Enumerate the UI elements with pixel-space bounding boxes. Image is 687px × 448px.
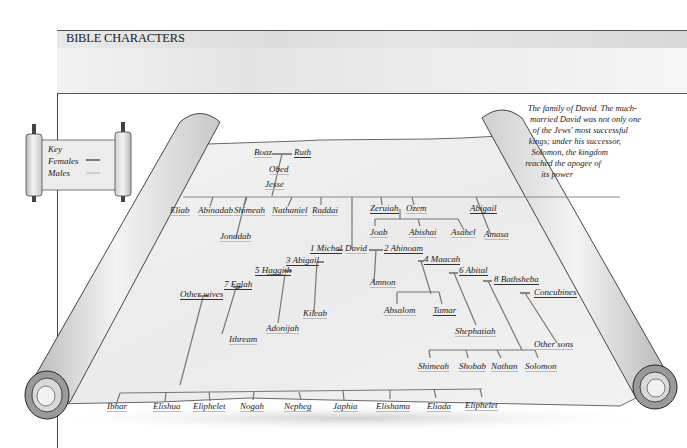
person-ruth: Ruth bbox=[294, 148, 311, 158]
wife-eglah: 7 Eglah bbox=[224, 280, 252, 290]
person-joab: Joab bbox=[370, 228, 388, 238]
person-japhia: Japhia bbox=[333, 402, 358, 412]
person-absalom: Absalom bbox=[384, 306, 416, 316]
wife-concubines: Concubines bbox=[534, 288, 577, 298]
caption-line-4: kings; under his successor, bbox=[529, 136, 621, 147]
person-eliada: Eliada bbox=[427, 402, 451, 412]
key-title: Key bbox=[48, 145, 62, 154]
wife-michal: 1 Michal bbox=[310, 244, 342, 254]
person-jesse: Jesse bbox=[265, 180, 284, 190]
person-abinadab: Abinadab bbox=[198, 206, 233, 216]
person-nathan: Nathan bbox=[491, 362, 518, 372]
person-shimeah: Shimeah bbox=[234, 206, 265, 216]
person-tamar: Tamar bbox=[433, 306, 456, 316]
person-elishua: Elishua bbox=[153, 402, 181, 412]
person-obed: Obed bbox=[269, 165, 289, 175]
person-adonijah: Adonijah bbox=[266, 324, 299, 334]
person-abigail-sister: Abigail bbox=[470, 204, 497, 214]
person-solomon: Solomon bbox=[525, 362, 557, 372]
person-jonadab: Jonadab bbox=[220, 232, 251, 242]
caption-line-6: reached the apogee of bbox=[525, 158, 601, 169]
person-shimeah-son: Shimeah bbox=[418, 362, 449, 372]
person-ithream: Ithream bbox=[229, 335, 257, 345]
person-eliphelet-1: Eliphelet bbox=[193, 402, 226, 412]
person-other-sons: Other sons bbox=[534, 340, 573, 350]
caption-line-3: of the Jews' most successful bbox=[533, 125, 628, 136]
person-shephatiah: Shephatiah bbox=[455, 327, 496, 337]
caption-line-5: Solomon, the kingdom bbox=[531, 147, 608, 158]
wife-bathsheba: 8 Bathsheba bbox=[494, 275, 539, 285]
person-abishai: Abishai bbox=[409, 228, 437, 238]
wife-other-wives: Other wives bbox=[180, 290, 223, 300]
caption-line-1: The family of David. The much- bbox=[528, 103, 637, 114]
person-eliab: Eliab bbox=[170, 206, 190, 216]
key-males-label: Males bbox=[48, 169, 70, 178]
caption-line-7: its power bbox=[541, 169, 573, 180]
person-david: David bbox=[345, 244, 367, 254]
person-shobab: Shobab bbox=[459, 362, 486, 372]
wife-abital: 6 Abital bbox=[459, 266, 488, 276]
person-ozem: Ozem bbox=[406, 204, 427, 214]
wife-ahinoam: 2 Ahinoam bbox=[384, 244, 423, 254]
person-ibhar: Ibhar bbox=[107, 402, 127, 412]
caption-line-2: married David was not only one bbox=[530, 114, 641, 125]
person-nogah: Nogah bbox=[240, 402, 264, 412]
person-kileab: Kileab bbox=[303, 309, 327, 319]
person-zeruiah: Zeruiah bbox=[370, 204, 399, 214]
key-females-label: Females bbox=[48, 157, 79, 166]
person-amnon: Amnon bbox=[370, 278, 396, 288]
wife-maacah: 4 Maacah bbox=[424, 255, 460, 265]
person-eliphelet-2: Eliphelet bbox=[465, 401, 498, 411]
wife-haggith: 5 Haggith bbox=[255, 266, 291, 276]
person-nepheg: Nepheg bbox=[284, 402, 312, 412]
person-nathaniel: Nathaniel bbox=[272, 206, 308, 216]
person-amasa: Amasa bbox=[484, 230, 509, 240]
person-asahel: Asahel bbox=[451, 228, 476, 238]
person-raddai: Raddai bbox=[312, 206, 338, 216]
person-elishama: Elishama bbox=[376, 402, 410, 412]
person-boaz: Boaz bbox=[254, 148, 272, 158]
